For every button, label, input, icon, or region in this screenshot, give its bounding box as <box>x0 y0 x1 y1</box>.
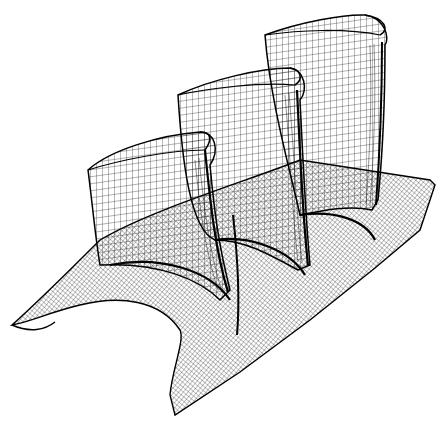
mesh-wireframe <box>0 0 447 443</box>
mesh-figure <box>0 0 447 443</box>
